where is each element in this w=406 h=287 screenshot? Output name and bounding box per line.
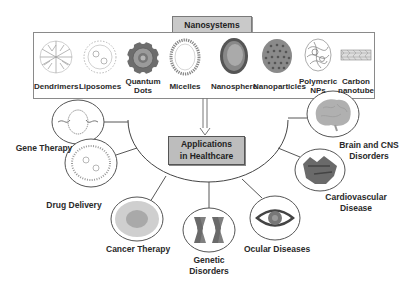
label-nanoparticles: Nanoparticles xyxy=(253,82,303,91)
label-gene-therapy: Gene Therapy xyxy=(14,143,74,154)
dna-icon xyxy=(52,100,104,144)
label-cancer-therapy: Cancer Therapy xyxy=(106,244,168,255)
label-quantum-line2: Dots xyxy=(121,86,165,95)
label-nanosphere: Nanosphere xyxy=(210,82,258,91)
label-micelles: Micelles xyxy=(163,82,207,91)
label-carbon-line2: nanotube xyxy=(336,86,376,95)
dendrimer-icon xyxy=(40,41,72,73)
brain-icon xyxy=(307,91,359,137)
label-carbon-line1: Carbon xyxy=(336,77,376,86)
carbon-nanotube-icon xyxy=(341,50,371,60)
eye-icon xyxy=(250,196,300,240)
label-genetic-line1: Genetic xyxy=(180,255,238,266)
label-brain-line2: Disorders xyxy=(336,151,402,162)
label-polymeric-nps: Polymeric NPs xyxy=(298,77,338,95)
label-cardio-line1: Cardiovascular xyxy=(318,192,394,203)
label-carbon-nanotube: Carbon nanotube xyxy=(336,77,376,95)
polymeric-np-icon xyxy=(305,39,331,71)
micelle-icon xyxy=(171,40,199,74)
chromosome-icon xyxy=(183,208,235,252)
label-genetic-disorders: Genetic Disorders xyxy=(180,255,238,277)
label-cardiovascular-disease: Cardiovascular Disease xyxy=(318,192,394,214)
hub-line1: Applications xyxy=(169,138,244,150)
label-brain-cns: Brain and CNS Disorders xyxy=(336,140,402,162)
down-arrow-icon xyxy=(200,98,210,135)
label-brain-line1: Brain and CNS xyxy=(336,140,402,151)
hub-line2: in Healthcare xyxy=(169,150,244,162)
applications-hub-box: Applications in Healthcare xyxy=(168,136,245,165)
quantum-dot-icon xyxy=(123,38,163,78)
label-cardio-line2: Disease xyxy=(318,203,394,214)
cancer-cell-icon xyxy=(111,197,163,241)
liposome-icon xyxy=(84,41,116,73)
label-polymeric-line1: Polymeric xyxy=(298,77,338,86)
label-genetic-line2: Disorders xyxy=(180,266,238,277)
nanoparticle-icon xyxy=(262,39,292,73)
label-dendrimers: Dendrimers xyxy=(34,82,78,91)
nanosphere-icon xyxy=(220,38,248,74)
label-quantum-line1: Quantum xyxy=(121,77,165,86)
label-quantum-dots: Quantum Dots xyxy=(121,77,165,95)
label-polymeric-line2: NPs xyxy=(298,86,338,95)
label-liposomes: Liposomes xyxy=(78,82,122,91)
label-ocular-diseases: Ocular Diseases xyxy=(244,244,310,255)
label-drug-delivery: Drug Delivery xyxy=(44,200,104,211)
